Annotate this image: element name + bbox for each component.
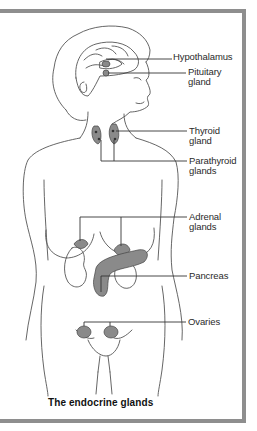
ovary-left: [77, 326, 91, 338]
leader-parathyroid: [101, 140, 187, 161]
ear: [80, 82, 87, 93]
label-hypothalamus: Hypothalamus: [173, 52, 233, 62]
neck: [80, 112, 136, 138]
uterus: [88, 340, 120, 356]
kidney-left: [65, 247, 87, 287]
label-ovaries: Ovaries: [188, 317, 220, 327]
thyroid-gland-left: [92, 126, 101, 144]
label-pituitary-gland: Pituitary gland: [188, 67, 221, 87]
torso-left: [23, 138, 80, 340]
label-thyroid-gland: Thyroid gland: [189, 126, 220, 146]
leader-ovaries: [84, 322, 186, 326]
label-parathyroid-glands: Parathyroid glands: [189, 156, 236, 176]
figure-caption: The endocrine glands: [48, 397, 153, 408]
leader-adrenal: [80, 217, 187, 246]
label-pancreas: Pancreas: [189, 271, 228, 281]
pancreas-gland: [93, 250, 147, 297]
hypothalamus-gland: [102, 61, 110, 67]
ovary-right: [104, 326, 118, 338]
label-adrenal-glands: Adrenal glands: [189, 212, 221, 232]
